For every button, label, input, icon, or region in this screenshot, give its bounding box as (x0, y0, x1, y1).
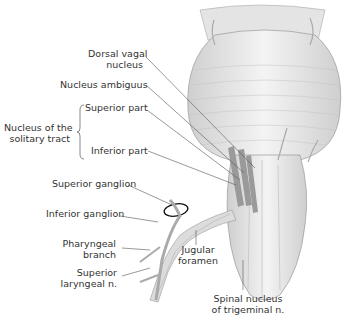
label-nucleus-ambiguus: Nucleus ambiguus (60, 79, 143, 90)
label-superior-part: Superior part (85, 102, 148, 113)
label-superior-ganglion: Superior ganglion (52, 178, 136, 189)
label-inferior-ganglion: Inferior ganglion (46, 208, 124, 219)
label-nucleus-solitary-tract: Nucleus of the solitary tract (4, 122, 70, 144)
label-dorsal-vagal-nucleus: Dorsal vagal nucleus (88, 48, 143, 70)
vagus-nerve-diagram: Dorsal vagal nucleus Nucleus ambiguus Nu… (0, 0, 354, 325)
label-spinal-nucleus-trigeminal: Spinal nucleus of trigeminal n. (208, 293, 288, 315)
label-pharyngeal-branch: Pharyngeal branch (60, 238, 116, 260)
label-jugular-foramen: Jugular foramen (176, 244, 220, 266)
label-inferior-part: Inferior part (91, 145, 148, 156)
label-superior-laryngeal-n: Superior laryngeal n. (60, 267, 117, 289)
brainstem-illustration (0, 0, 354, 325)
